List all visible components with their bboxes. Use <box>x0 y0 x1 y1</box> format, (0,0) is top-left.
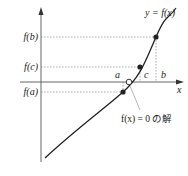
x-axis-label: x <box>176 84 182 95</box>
point-c <box>137 64 142 69</box>
root-annotation: f(x) = 0 の解 <box>121 113 172 125</box>
root-point <box>126 79 132 85</box>
x-tick-c: c <box>144 69 149 80</box>
point-b <box>153 34 158 39</box>
x-tick-a: a <box>115 69 120 80</box>
y-tick-fa: f(a) <box>24 86 39 98</box>
y-tick-fc: f(c) <box>24 61 39 73</box>
ivt-diagram: y = f(x) f(b) f(c) f(a) a c b x f(x) = 0… <box>0 0 188 176</box>
curve-label: y = f(x) <box>144 7 176 19</box>
y-axis-arrow-icon <box>39 7 44 15</box>
guide-lines <box>41 37 156 92</box>
y-tick-fb: f(b) <box>24 31 39 43</box>
function-curve <box>45 8 176 158</box>
x-tick-b: b <box>161 69 166 80</box>
annotation-pointer <box>130 86 140 110</box>
point-a <box>120 89 125 94</box>
